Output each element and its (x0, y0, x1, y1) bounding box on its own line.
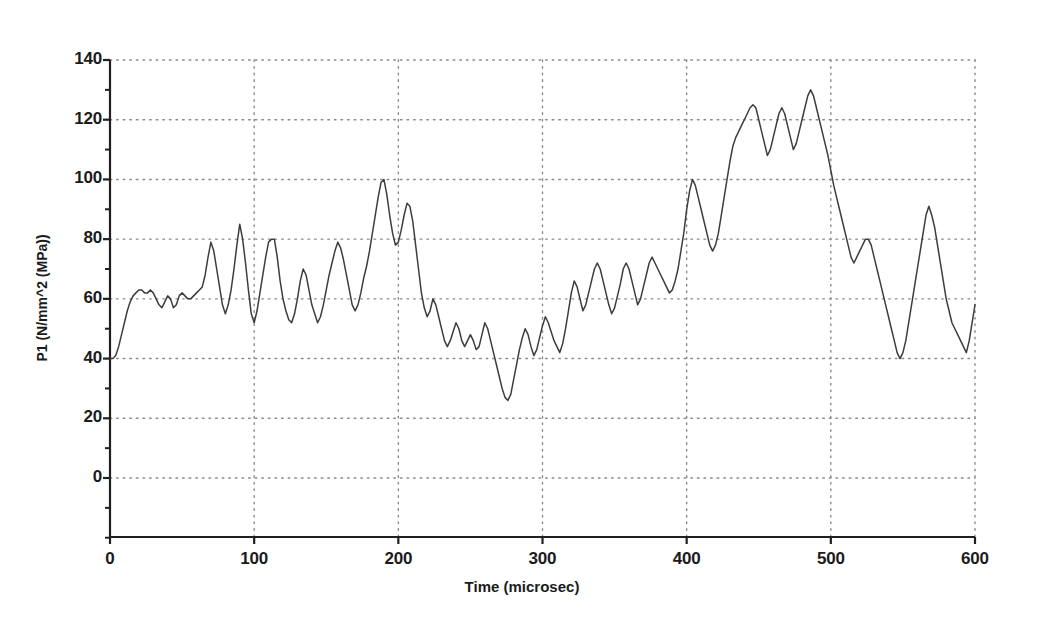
x-tick-label-200: 200 (358, 549, 438, 569)
plot-area (0, 0, 1044, 633)
axis-ticks (103, 60, 975, 544)
x-tick-label-100: 100 (214, 549, 294, 569)
x-tick-label-500: 500 (791, 549, 871, 569)
x-tick-label-300: 300 (503, 549, 583, 569)
gridlines (110, 60, 975, 537)
x-tick-label-0: 0 (70, 549, 150, 569)
y-tick-label-80: 80 (46, 228, 102, 248)
x-tick-label-600: 600 (935, 549, 1015, 569)
y-tick-label-100: 100 (46, 168, 102, 188)
y-tick-label-0: 0 (46, 467, 102, 487)
y-axis-title: P1 (N/mm^2 (MPa)) (34, 198, 50, 398)
y-tick-label-60: 60 (46, 288, 102, 308)
y-tick-label-40: 40 (46, 348, 102, 368)
x-tick-label-400: 400 (647, 549, 727, 569)
x-axis-title: Time (microsec) (0, 578, 1044, 595)
y-tick-label-140: 140 (46, 49, 102, 69)
y-tick-label-120: 120 (46, 109, 102, 129)
chart-container: 140120100806040200 0100200300400500600 P… (0, 0, 1044, 633)
y-tick-label-20: 20 (46, 407, 102, 427)
